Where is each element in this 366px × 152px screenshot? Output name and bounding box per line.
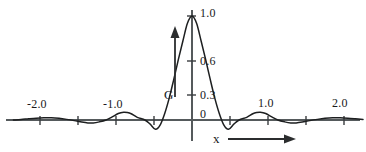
diffraction-plot-figure: -2.0 -1.0 1.0 2.0 1.0 0.6 0.3 0 G x [0, 0, 366, 152]
x-tick-label-1.0: 1.0 [258, 97, 274, 109]
y-axis-name: G [164, 89, 174, 101]
y-tick-label-1.0: 1.0 [200, 7, 216, 19]
data-curve [13, 16, 363, 129]
plot-canvas [0, 0, 366, 152]
x-tick-label--1.0: -1.0 [103, 98, 123, 110]
y-tick-label-0.6: 0.6 [200, 55, 216, 67]
y-tick-label-0: 0 [200, 108, 206, 120]
x-tick-label--2.0: -2.0 [27, 98, 47, 110]
arrow-right-icon [228, 135, 296, 144]
y-tick-label-0.3: 0.3 [200, 89, 216, 101]
x-axis-name: x [213, 133, 220, 145]
x-tick-label-2.0: 2.0 [332, 97, 348, 109]
